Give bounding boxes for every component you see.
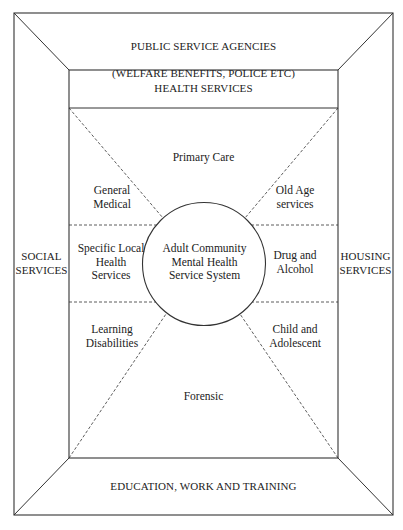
segment-forensic: Forensic [69, 390, 338, 404]
segment-specific-local-health: Specific Local Health Services [66, 242, 156, 283]
housing-services-label: HOUSING SERVICES [338, 250, 393, 277]
education-work-training-label: EDUCATION, WORK AND TRAINING [14, 480, 393, 494]
segment-learning-disabilities: Learning Disabilities [72, 323, 152, 350]
segment-general-medical: General Medical [72, 184, 152, 211]
health-services-label: HEALTH SERVICES [69, 82, 338, 96]
segment-primary-care: Primary Care [69, 151, 338, 165]
segment-drug-and-alcohol: Drug and Alcohol [255, 249, 335, 276]
social-services-label: SOCIAL SERVICES [14, 250, 69, 277]
segment-child-and-adolescent: Child and Adolescent [255, 323, 335, 350]
center-adult-community-mh-label: Adult Community Mental Health Service Sy… [144, 242, 265, 283]
public-service-agencies-line1: PUBLIC SERVICE AGENCIES [14, 40, 393, 54]
segment-old-age-services: Old Age services [255, 184, 335, 211]
public-service-agencies-line2: (WELFARE BENEFITS, POLICE ETC) [14, 67, 393, 81]
